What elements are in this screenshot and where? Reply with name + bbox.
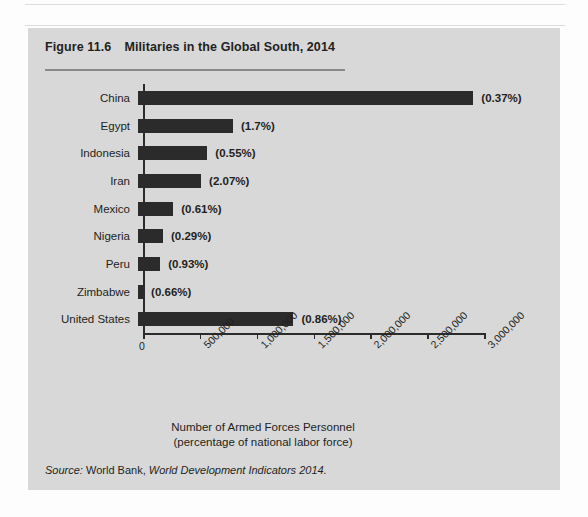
- bar-value-label: (0.55%): [215, 147, 255, 159]
- chart-row: Mexico(0.61%): [28, 195, 560, 223]
- bar-chart: China(0.37%)Egypt(1.7%)Indonesia(0.55%)I…: [28, 28, 560, 490]
- chart-row: China(0.37%): [28, 84, 560, 112]
- chart-row: Egypt(1.7%): [28, 112, 560, 140]
- chart-row: Zimbabwe(0.66%): [28, 278, 560, 306]
- bar-area: (2.07%): [138, 167, 560, 195]
- bar-area: (0.29%): [138, 222, 560, 250]
- category-label: Peru: [28, 258, 138, 270]
- category-label: United States: [28, 313, 138, 325]
- bar-area: (0.93%): [138, 250, 560, 278]
- bar-value-label: (0.29%): [171, 230, 211, 242]
- bar-value-label: (0.93%): [168, 258, 208, 270]
- bar-area: (1.7%): [138, 112, 560, 140]
- chart-row: Peru(0.93%): [28, 250, 560, 278]
- bar: [138, 257, 160, 271]
- category-label: Iran: [28, 175, 138, 187]
- category-label: Mexico: [28, 203, 138, 215]
- bar: [138, 312, 293, 326]
- bar: [138, 229, 163, 243]
- page-rule-second: [25, 25, 565, 26]
- category-label: Egypt: [28, 120, 138, 132]
- bar: [138, 174, 201, 188]
- bar-value-label: (0.61%): [181, 203, 221, 215]
- page-rule-top: [25, 4, 565, 5]
- x-axis-caption: Number of Armed Forces Personnel (percen…: [28, 420, 498, 450]
- y-axis-line: [143, 84, 145, 333]
- source-organization: World Bank,: [86, 464, 146, 476]
- x-axis-tick: [143, 333, 145, 339]
- chart-row: Nigeria(0.29%): [28, 222, 560, 250]
- bar-value-label: (2.07%): [209, 175, 249, 187]
- category-label: China: [28, 92, 138, 104]
- source-prefix: Source:: [45, 464, 83, 476]
- chart-row: Indonesia(0.55%): [28, 139, 560, 167]
- category-label: Nigeria: [28, 230, 138, 242]
- bar-value-label: (1.7%): [241, 120, 275, 132]
- x-axis-tick: [257, 333, 259, 339]
- x-axis-tick: [314, 333, 316, 339]
- chart-rows: China(0.37%)Egypt(1.7%)Indonesia(0.55%)I…: [28, 84, 560, 333]
- bar-area: (0.37%): [138, 84, 560, 112]
- bar-area: (0.61%): [138, 195, 560, 223]
- x-axis-tick: [484, 333, 486, 339]
- bar-value-label: (0.66%): [151, 286, 191, 298]
- category-label: Zimbabwe: [28, 286, 138, 298]
- bar: [138, 91, 473, 105]
- figure-panel: Figure 11.6Militaries in the Global Sout…: [28, 28, 560, 490]
- category-label: Indonesia: [28, 147, 138, 159]
- bar-value-label: (0.37%): [481, 92, 521, 104]
- bar-area: (0.55%): [138, 139, 560, 167]
- x-axis-tick: [200, 333, 202, 339]
- source-note: Source: World Bank, World Development In…: [45, 464, 327, 476]
- x-axis-tick: [370, 333, 372, 339]
- x-axis-caption-line2: (percentage of national labor force): [28, 435, 498, 450]
- bar-area: (0.66%): [138, 278, 560, 306]
- bar: [138, 146, 207, 160]
- x-axis-tick-label: 0: [139, 340, 145, 352]
- x-axis-tick: [427, 333, 429, 339]
- source-publication: World Development Indicators 2014.: [149, 464, 327, 476]
- chart-row: Iran(2.07%): [28, 167, 560, 195]
- bar: [138, 119, 233, 133]
- x-axis-caption-line1: Number of Armed Forces Personnel: [28, 420, 498, 435]
